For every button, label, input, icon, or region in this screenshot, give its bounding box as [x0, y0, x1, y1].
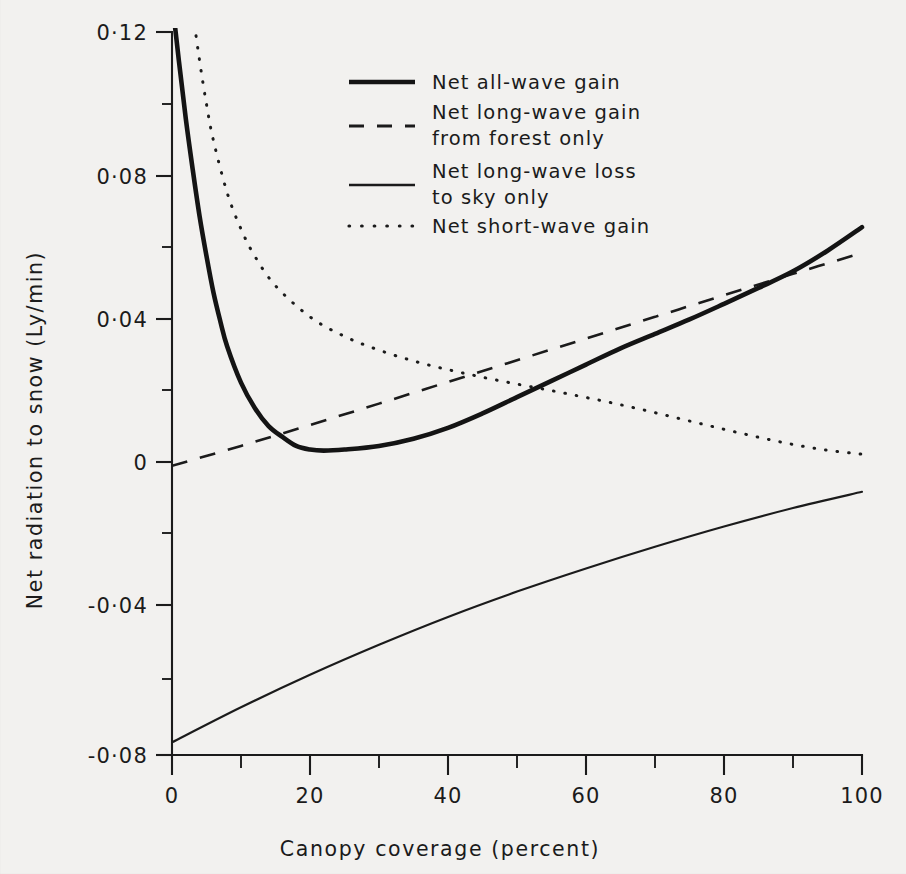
- x-tick-label: 100: [840, 784, 884, 808]
- y-tick-label: 0·04: [96, 308, 148, 332]
- x-tick-label: 60: [571, 784, 600, 808]
- y-axis-tick-labels: 0·12 0·08 0·04 0 -0·04 -0·08: [88, 21, 148, 768]
- x-axis-title: Canopy coverage (percent): [280, 837, 600, 861]
- y-tick-label: -0·08: [88, 744, 148, 768]
- y-axis-ticks: [156, 32, 172, 755]
- y-tick-label: 0·12: [96, 21, 148, 45]
- legend-label: Net short-wave gain: [432, 215, 650, 238]
- x-axis-tick-labels: 0 20 40 60 80 100: [165, 784, 884, 808]
- x-tick-label: 0: [165, 784, 180, 808]
- series-net-long-wave-loss: [172, 492, 862, 743]
- x-tick-label: 80: [709, 784, 738, 808]
- legend-label: Net long-wave gain: [432, 101, 641, 124]
- legend-label: Net all-wave gain: [432, 71, 621, 94]
- y-tick-label: -0·04: [88, 594, 148, 618]
- radiation-canopy-chart: 0·12 0·08 0·04 0 -0·04 -0·08 0 20 40 60 …: [0, 0, 906, 874]
- x-tick-label: 40: [433, 784, 462, 808]
- legend-label-2: to sky only: [432, 186, 550, 209]
- y-tick-label: 0·08: [96, 165, 148, 189]
- y-tick-label: 0: [133, 451, 148, 475]
- legend-label-2: from forest only: [432, 127, 605, 150]
- legend-label: Net long-wave loss: [432, 160, 637, 183]
- y-axis-title: Net radiation to snow (Ly/min): [23, 251, 47, 609]
- legend: Net all-wave gain Net long-wave gain fro…: [349, 71, 650, 238]
- x-axis-ticks: [172, 755, 862, 775]
- x-tick-label: 20: [295, 784, 324, 808]
